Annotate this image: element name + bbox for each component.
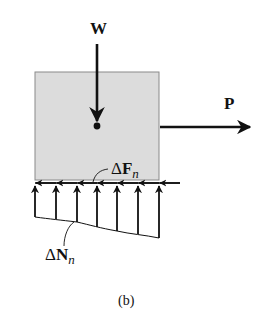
normal-leader [64,222,74,246]
free-body-diagram: W P ΔFn ΔNn (b) [0,0,271,332]
center-of-gravity-dot [94,123,101,130]
figure-caption: (b) [118,293,135,309]
weight-label: W [90,19,107,38]
normal-force-arrows [35,186,159,238]
applied-force-label: P [224,94,234,113]
normal-label: ΔNn [45,245,75,267]
